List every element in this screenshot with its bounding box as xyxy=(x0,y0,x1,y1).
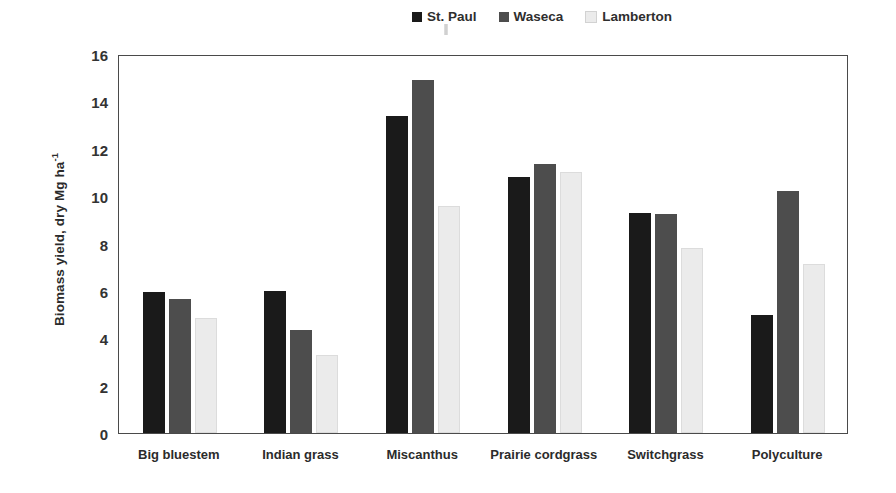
bar[interactable] xyxy=(803,264,825,433)
legend-item[interactable]: St. Paul xyxy=(412,9,477,24)
bar[interactable] xyxy=(751,315,773,433)
bar[interactable] xyxy=(534,164,556,433)
bar[interactable] xyxy=(438,206,460,433)
bar-group xyxy=(484,56,606,433)
y-tick-label: 8 xyxy=(74,236,108,253)
bar[interactable] xyxy=(560,172,582,433)
scan-artifact xyxy=(444,24,448,35)
y-axis-title-superscript: -1 xyxy=(49,153,60,162)
plot-frame xyxy=(118,55,848,434)
plot-area xyxy=(119,56,847,433)
bar[interactable] xyxy=(195,318,217,433)
bar[interactable] xyxy=(290,330,312,433)
x-tick-label: Prairie cordgrass xyxy=(490,447,597,462)
x-tick-label: Indian grass xyxy=(262,447,339,462)
bar-group xyxy=(241,56,363,433)
x-tick-label: Miscanthus xyxy=(386,447,458,462)
bar[interactable] xyxy=(681,248,703,433)
y-tick-label: 14 xyxy=(74,94,108,111)
biomass-yield-bar-chart: Biomass yield, dry Mg ha-1 1614121086420… xyxy=(0,0,896,493)
bar[interactable] xyxy=(316,355,338,433)
bar-group xyxy=(606,56,728,433)
bar[interactable] xyxy=(629,213,651,433)
bar[interactable] xyxy=(655,214,677,433)
bar-group xyxy=(362,56,484,433)
bar[interactable] xyxy=(143,292,165,433)
bar[interactable] xyxy=(264,291,286,433)
y-axis-title: Biomass yield, dry Mg ha-1 xyxy=(52,95,67,385)
legend-label: Lamberton xyxy=(602,9,672,24)
bar-group xyxy=(727,56,849,433)
bar[interactable] xyxy=(777,191,799,433)
legend-swatch-icon xyxy=(499,12,509,22)
legend-item[interactable]: Waseca xyxy=(499,9,564,24)
bar[interactable] xyxy=(386,116,408,433)
y-axis-title-text: Biomass yield, dry Mg ha xyxy=(52,162,67,326)
chart-legend: St. PaulWasecaLamberton xyxy=(412,9,672,24)
y-tick-label: 12 xyxy=(74,141,108,158)
x-tick-label: Polyculture xyxy=(752,447,823,462)
x-tick-label: Switchgrass xyxy=(627,447,704,462)
y-tick-label: 16 xyxy=(74,47,108,64)
x-tick-label: Big bluestem xyxy=(138,447,220,462)
bar-group xyxy=(119,56,241,433)
y-tick-label: 4 xyxy=(74,331,108,348)
y-tick-label: 2 xyxy=(74,378,108,395)
y-tick-label: 0 xyxy=(74,426,108,443)
legend-swatch-icon xyxy=(412,12,422,22)
y-tick-label: 6 xyxy=(74,283,108,300)
bar[interactable] xyxy=(412,80,434,433)
legend-label: St. Paul xyxy=(427,9,477,24)
legend-label: Waseca xyxy=(514,9,564,24)
y-tick-label: 10 xyxy=(74,189,108,206)
bar[interactable] xyxy=(169,299,191,433)
legend-swatch-icon xyxy=(585,11,597,23)
bar[interactable] xyxy=(508,177,530,433)
legend-item[interactable]: Lamberton xyxy=(585,9,672,24)
